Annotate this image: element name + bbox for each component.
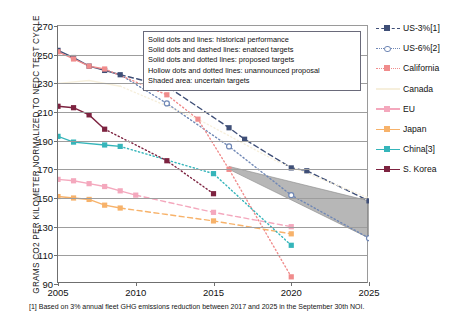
legend-marker-icon — [376, 23, 400, 33]
legend-item-label: California — [403, 63, 439, 73]
legend-marker-icon — [376, 43, 400, 53]
description-legend-box: Solid dots and lines: historical perform… — [143, 31, 361, 91]
y-tick-label: 150 — [37, 193, 53, 204]
series-line-historical-EU — [58, 179, 136, 195]
data-point-EU — [211, 210, 216, 215]
y-tick-mark — [54, 255, 58, 256]
data-point-US-6%[2] — [289, 193, 294, 198]
legend-item-skorea[interactable]: S. Korea — [376, 159, 452, 179]
data-point-Japan — [289, 231, 294, 236]
x-tick-mark — [291, 282, 292, 286]
gridline — [58, 255, 367, 256]
legend-item-california[interactable]: California — [376, 58, 452, 78]
data-point-S. Korea — [87, 112, 92, 117]
data-point-EU — [118, 188, 123, 193]
data-point-EU — [71, 178, 76, 183]
desc-line-1: Solid dots and dashed lines: enatced tar… — [148, 45, 356, 55]
data-point-US-6%[2] — [367, 236, 370, 241]
gridline — [58, 169, 367, 170]
y-tick-label: 110 — [38, 250, 53, 261]
data-point-S. Korea — [164, 158, 169, 163]
gridline — [58, 198, 367, 199]
legend-item-eu[interactable]: EU — [376, 99, 452, 119]
series-line-projected-China[3] — [120, 146, 291, 245]
y-tick-mark — [54, 141, 58, 142]
legend-marker-icon — [376, 144, 400, 154]
data-point-China[3] — [211, 171, 216, 176]
x-tick-label: 2010 — [125, 287, 146, 298]
data-point-California — [195, 117, 200, 122]
gridline — [58, 227, 367, 228]
y-tick-label: 130 — [37, 221, 53, 232]
data-point-S. Korea — [211, 191, 216, 196]
data-point-S. Korea — [58, 104, 61, 109]
data-point-California — [289, 274, 294, 279]
x-tick-mark — [369, 282, 370, 286]
x-tick-mark — [136, 282, 137, 286]
legend-item-label: S. Korea — [403, 164, 436, 174]
y-tick-label: 270 — [37, 21, 53, 32]
data-point-China[3] — [58, 134, 61, 139]
gridline — [58, 141, 367, 142]
y-tick-label: 210 — [37, 107, 53, 118]
data-point-EU — [133, 193, 138, 198]
legend-item-label: China[3] — [403, 144, 435, 154]
legend-item-canada[interactable]: Canada — [376, 79, 452, 99]
legend-item-label: US-6%[2] — [403, 43, 440, 53]
data-point-California — [102, 66, 107, 71]
data-point-S. Korea — [102, 127, 107, 132]
legend-item-us31[interactable]: US-3%[1] — [376, 18, 452, 38]
data-point-US-3%[1] — [366, 198, 369, 203]
footnote: [1] Based on 3% annual fleet GHG emissio… — [29, 303, 364, 310]
data-point-US-6%[2] — [227, 144, 232, 149]
data-point-Japan — [211, 218, 216, 223]
y-tick-label: 170 — [37, 164, 53, 175]
y-tick-mark — [54, 26, 58, 27]
legend-marker-icon — [376, 164, 400, 174]
x-tick-label: 2025 — [358, 287, 379, 298]
legend-item-label: Japan — [403, 124, 426, 134]
data-point-EU — [58, 177, 61, 182]
series-line-projected-S. Korea — [105, 129, 214, 194]
y-tick-label: 230 — [37, 78, 53, 89]
series-line-projected-California — [105, 69, 292, 277]
y-tick-mark — [54, 112, 58, 113]
x-tick-label: 2020 — [281, 287, 302, 298]
data-point-Japan — [118, 205, 123, 210]
series-line-historical-S. Korea — [58, 106, 105, 129]
data-point-California — [164, 92, 169, 97]
legend-item-label: EU — [403, 104, 415, 114]
desc-line-4: Shaded area: uncertain targets — [148, 76, 356, 86]
desc-line-0: Solid dots and lines: historical perform… — [148, 35, 356, 45]
data-point-S. Korea — [71, 105, 76, 110]
legend-item-label: US-3%[1] — [403, 23, 440, 33]
data-point-US-3%[1] — [118, 72, 123, 77]
y-tick-mark — [54, 198, 58, 199]
legend-marker-icon — [376, 63, 400, 73]
y-tick-mark — [54, 55, 58, 56]
data-point-California — [58, 49, 61, 54]
gridline — [58, 112, 367, 113]
legend-marker-icon — [376, 84, 400, 94]
y-tick-mark — [54, 169, 58, 170]
x-tick-label: 2015 — [203, 287, 224, 298]
data-point-China[3] — [289, 243, 294, 248]
legend-marker-icon — [376, 104, 400, 114]
data-point-China[3] — [118, 144, 123, 149]
legend-item-us62[interactable]: US-6%[2] — [376, 38, 452, 58]
legend-item-japan[interactable]: Japan — [376, 119, 452, 139]
y-tick-label: 190 — [37, 135, 53, 146]
data-point-EU — [87, 181, 92, 186]
x-tick-mark — [214, 282, 215, 286]
data-point-China[3] — [102, 142, 107, 147]
x-tick-mark — [58, 282, 59, 286]
legend-item-china3[interactable]: China[3] — [376, 139, 452, 159]
data-point-EU — [102, 184, 107, 189]
data-point-US-6%[2] — [164, 101, 169, 106]
series-legend: US-3%[1]US-6%[2]CaliforniaCanadaEUJapanC… — [376, 18, 452, 180]
y-tick-mark — [54, 227, 58, 228]
data-point-California — [87, 64, 92, 69]
data-point-Japan — [102, 203, 107, 208]
desc-line-3: Hollow dots and dotted lines: unannounce… — [148, 66, 356, 76]
x-tick-label: 2005 — [47, 287, 68, 298]
